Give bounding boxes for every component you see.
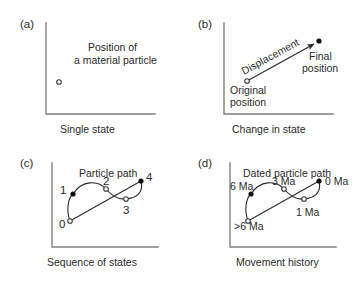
node-6ma-label: 6 Ma: [230, 180, 254, 192]
panel-b-caption: Change in state: [232, 123, 306, 135]
panel-b-label: (b): [198, 18, 212, 30]
panel-c: (c) Particle path 0 1 2 3 4 Sequence of …: [20, 157, 158, 268]
node-3ma-label: 3 Ma: [272, 175, 296, 187]
panel-d: (d) Dated particle path >6 Ma 6 Ma 3 Ma …: [198, 157, 349, 268]
node-1ma-marker: [302, 197, 307, 202]
panel-b: (b) Displacement Original position Final…: [198, 18, 338, 135]
node-3-marker: [124, 197, 129, 202]
final-position-marker: [316, 38, 321, 43]
panel-a-axes: [46, 23, 155, 114]
panel-c-caption: Sequence of states: [47, 256, 137, 268]
node-1-marker: [70, 191, 75, 196]
node-1-label: 1: [60, 184, 66, 196]
original-position-line-2: position: [230, 96, 266, 108]
original-position-line-1: Original: [230, 84, 266, 96]
original-position-marker: [245, 79, 250, 84]
figure-container: (a) Position of a material particle Sing…: [0, 0, 356, 282]
panel-a-annotation-line-2: a material particle: [74, 54, 157, 66]
node-4-marker: [138, 178, 143, 183]
node-3ma-marker: [282, 187, 287, 192]
panel-a-annotation-line-1: Position of: [88, 41, 137, 53]
node-0ma-marker: [316, 178, 321, 183]
final-position-line-2: position: [302, 62, 338, 74]
node-2-label: 2: [103, 175, 109, 187]
node-0-marker: [68, 219, 73, 224]
panel-a-caption: Single state: [60, 123, 115, 135]
node-4-label: 4: [146, 171, 153, 183]
final-position-line-1: Final: [309, 50, 332, 62]
particle-marker: [57, 80, 62, 85]
panel-c-label: (c): [20, 157, 34, 169]
node-3-label: 3: [123, 204, 129, 216]
node-0ma-label: 0 Ma: [325, 175, 349, 187]
node-2-marker: [104, 187, 109, 192]
panel-a: (a) Position of a material particle Sing…: [20, 18, 157, 135]
panel-a-label: (a): [20, 18, 34, 30]
panel-d-caption: Movement history: [236, 256, 320, 268]
node-0-label: 0: [59, 218, 65, 230]
node-6ma-marker: [248, 191, 253, 196]
panel-d-label: (d): [198, 157, 212, 169]
node-gt6ma-label: >6 Ma: [234, 220, 264, 232]
four-panel-diagram: (a) Position of a material particle Sing…: [0, 0, 356, 282]
node-1ma-label: 1 Ma: [296, 206, 320, 218]
